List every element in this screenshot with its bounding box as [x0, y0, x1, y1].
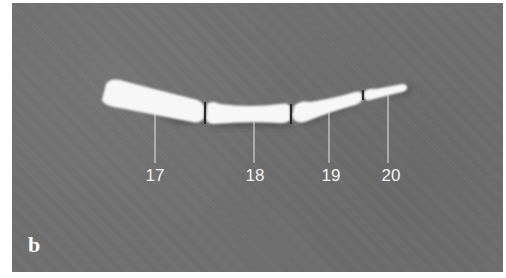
callout-label-17: 17 [146, 166, 165, 186]
callout-label-20: 20 [382, 166, 401, 186]
callout-label-19: 19 [322, 166, 341, 186]
callout-label-18: 18 [246, 166, 265, 186]
phalanges-illustration [0, 0, 506, 278]
bone-19 [292, 92, 362, 123]
bone-20 [364, 84, 407, 100]
bone-18 [206, 102, 290, 124]
panel-label: b [28, 232, 40, 258]
bone-17 [102, 80, 204, 123]
